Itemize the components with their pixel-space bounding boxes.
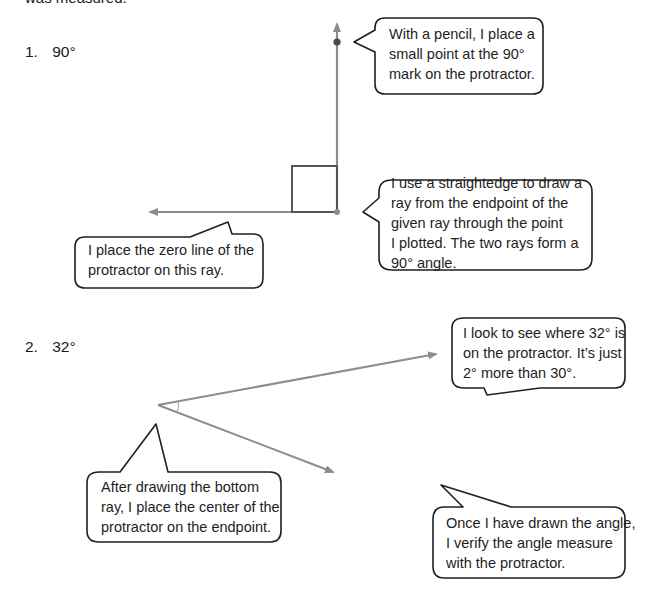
callout-pencil: With a pencil, I place a small point at … [389, 24, 535, 84]
problem-angle: 32° [52, 338, 75, 355]
lower-ray [158, 405, 333, 472]
problem-number: 1. [25, 43, 38, 60]
angle-arc [177, 401, 179, 412]
cutoff-header-text: was measured. [25, 0, 127, 8]
callout-after-drawing: After drawing the bottom ray, I place th… [101, 477, 280, 537]
upper-ray [158, 354, 436, 405]
callout-zero-line: I place the zero line of the protractor … [88, 240, 254, 280]
callout-verify: Once I have drawn the angle, I verify th… [446, 513, 635, 573]
acute-angle-figure [158, 354, 436, 472]
diagram-canvas [0, 0, 653, 600]
plotted-point [333, 38, 340, 45]
endpoint [334, 209, 340, 215]
problem-2-label: 2. 32° [25, 337, 76, 357]
problem-angle: 90° [52, 43, 75, 60]
callout-straightedge: I use a straightedge to draw a ray from … [391, 173, 582, 273]
callout-look: I look to see where 32° is on the protra… [463, 323, 625, 383]
right-angle-figure [150, 24, 341, 215]
right-angle-mark [292, 166, 337, 212]
problem-1-label: 1. 90° [25, 42, 76, 62]
problem-number: 2. [25, 338, 38, 355]
